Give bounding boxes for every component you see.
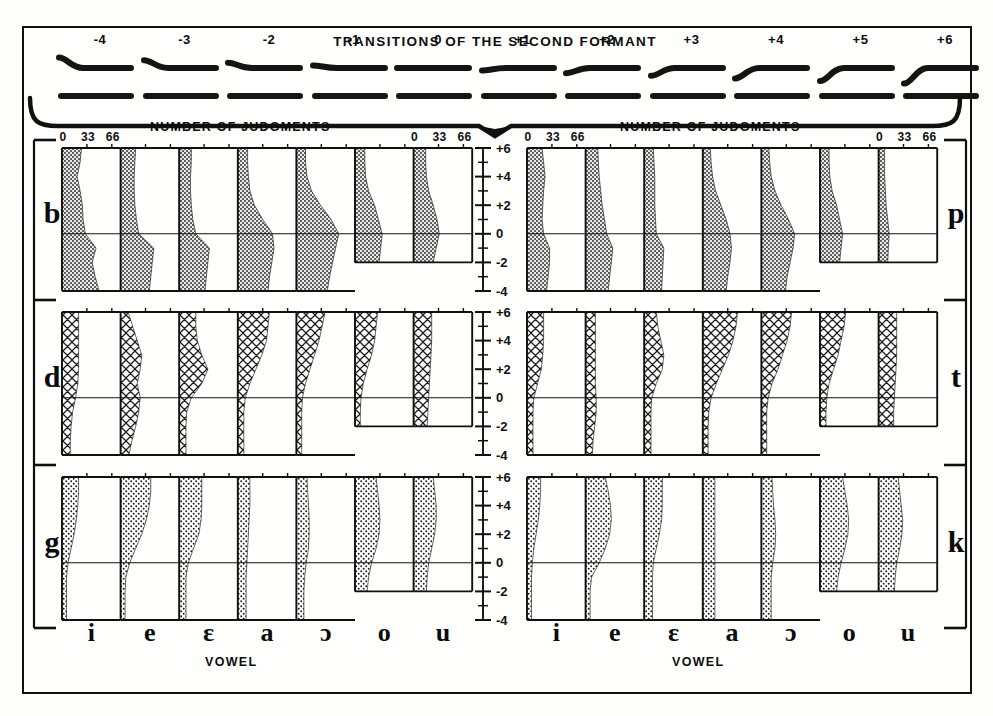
vowel-label-left-3: a — [238, 618, 297, 648]
vowel-label-right-5: o — [820, 618, 879, 648]
vowel-label-right-0: i — [527, 618, 586, 648]
row-brackets — [0, 0, 993, 716]
vowel-label-left-4: ɔ — [296, 618, 355, 648]
vowel-label-right-3: a — [703, 618, 762, 648]
vowel-label-left-5: o — [355, 618, 414, 648]
vowel-label-right-2: ɛ — [644, 618, 703, 648]
vowel-label-left-2: ɛ — [179, 618, 238, 648]
vowel-label-right-1: e — [586, 618, 645, 648]
vowel-label-right-6: u — [879, 618, 938, 648]
vowel-label-left-6: u — [414, 618, 473, 648]
figure-root: TRANSITIONS OF THE SECOND FORMANT -4-3-2… — [0, 0, 993, 716]
vowel-label-left-0: i — [62, 618, 121, 648]
vowel-label-left-1: e — [121, 618, 180, 648]
vowel-label-right-4: ɔ — [761, 618, 820, 648]
